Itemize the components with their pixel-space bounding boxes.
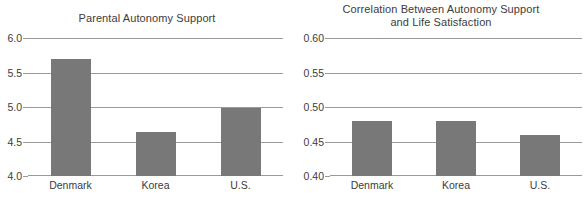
y-axis-tick-label: 5.0 — [7, 101, 22, 113]
y-axis-tick-label: 5.5 — [7, 67, 22, 79]
x-axis-category-label: Korea — [141, 179, 169, 191]
bar — [520, 135, 560, 176]
figure-two-panel-bar-charts: Parental Autonomy Support 4.04.55.05.56.… — [0, 0, 588, 198]
y-axis-tick-label: 0.50 — [304, 101, 324, 113]
x-axis-category-label: Korea — [442, 179, 470, 191]
y-axis-tick-mark — [325, 142, 330, 143]
y-axis-tick-mark — [325, 176, 330, 177]
plot-area: 0.400.450.500.550.60DenmarkKoreaU.S. — [330, 38, 582, 176]
y-axis-tick-label: 6.0 — [7, 32, 22, 44]
chart-title: Correlation Between Autonomy Support and… — [294, 3, 588, 29]
y-axis-tick-mark — [23, 142, 28, 143]
x-axis-category-label: U.S. — [230, 179, 250, 191]
chart-panel-correlation-autonomy-life-satisfaction: Correlation Between Autonomy Support and… — [294, 0, 588, 198]
y-axis-tick-label: 0.60 — [304, 32, 324, 44]
gridline — [28, 38, 283, 39]
bar — [136, 132, 176, 176]
bar — [436, 121, 476, 176]
y-axis-tick-label: 0.55 — [304, 67, 324, 79]
y-axis-tick-mark — [325, 38, 330, 39]
x-axis-category-label: U.S. — [530, 179, 550, 191]
x-axis-category-label: Denmark — [49, 179, 92, 191]
y-axis-tick-label: 4.0 — [7, 170, 22, 182]
y-axis-tick-label: 0.45 — [304, 136, 324, 148]
gridline — [330, 38, 582, 39]
chart-panel-parental-autonomy-support: Parental Autonomy Support 4.04.55.05.56.… — [0, 0, 294, 198]
x-axis-category-label: Denmark — [351, 179, 394, 191]
gridline — [330, 73, 582, 74]
bar — [352, 121, 392, 176]
bar — [51, 59, 91, 176]
y-axis-tick-mark — [325, 73, 330, 74]
y-axis-tick-mark — [23, 107, 28, 108]
y-axis-tick-label: 0.40 — [304, 170, 324, 182]
gridline — [330, 107, 582, 108]
plot-area: 4.04.55.05.56.0DenmarkKoreaU.S. — [28, 38, 283, 176]
chart-title: Parental Autonomy Support — [0, 12, 294, 25]
y-axis-tick-mark — [23, 176, 28, 177]
y-axis-tick-mark — [325, 107, 330, 108]
y-axis-tick-mark — [23, 73, 28, 74]
y-axis-tick-mark — [23, 38, 28, 39]
bar — [221, 108, 261, 176]
y-axis-tick-label: 4.5 — [7, 136, 22, 148]
